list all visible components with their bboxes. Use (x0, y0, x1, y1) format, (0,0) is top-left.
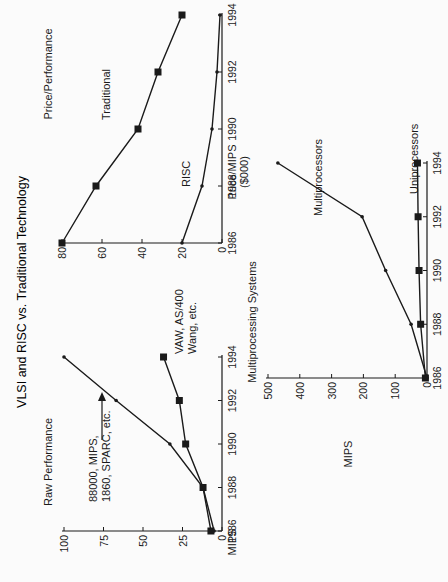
data-point-dot (168, 442, 172, 446)
x-tick-label: 1988 (431, 312, 443, 336)
y-tick-label: 300 (326, 382, 338, 400)
data-point-square (155, 69, 162, 76)
x-tick-label: 1992 (226, 60, 238, 84)
y-tick-label: 80 (56, 247, 68, 259)
data-point-dot (409, 322, 413, 326)
y-axis-label: MIPS (226, 529, 238, 556)
chart-title: Price/Performance (42, 28, 54, 119)
y-tick-label: 200 (357, 382, 369, 400)
chart-title: Raw Performance (42, 418, 54, 506)
data-point-square (182, 441, 189, 448)
annotation-traditional-systems: VAW, AS/400 (173, 289, 185, 354)
x-tick-label: 1988 (226, 476, 238, 500)
data-point-square (93, 183, 100, 190)
y-tick-label: 75 (98, 535, 110, 547)
price-performance-chart: 02040608019861988199019921994Price/Perfo… (42, 3, 250, 259)
x-tick-label: 1990 (226, 117, 238, 141)
y-axis-label: Price/MIPS (226, 144, 238, 199)
y-tick-label: 25 (177, 535, 189, 547)
data-point-dot (114, 399, 118, 403)
y-tick-label: 20 (176, 247, 188, 259)
series-line (278, 163, 427, 378)
series-label-multiprocessors: Multiprocessors (312, 138, 324, 216)
data-point-dot (384, 269, 388, 273)
data-point-dot (360, 215, 364, 219)
page-title: VLSI and RISC vs. Traditional Technology (15, 175, 29, 408)
data-point-square (59, 240, 66, 247)
y-tick-label: 60 (96, 247, 108, 259)
multiprocessing-systems-chart: 010020030040050019861988199019921994Mult… (246, 151, 443, 467)
data-point-dot (276, 161, 280, 165)
data-point-dot (215, 70, 219, 74)
series-line (182, 15, 220, 243)
y-tick-label: 500 (262, 382, 274, 400)
x-tick-label: 1990 (431, 259, 443, 283)
data-point-square (160, 354, 167, 361)
charts-group: 025507510019861988199019921994Raw Perfor… (42, 3, 443, 555)
arrow-head-icon (98, 392, 106, 401)
annotation-traditional-systems: Wang, etc. (186, 302, 198, 354)
chart-title: Multiprocessing Systems (246, 261, 258, 383)
data-point-dot (210, 127, 214, 131)
data-point-dot (62, 355, 66, 359)
y-tick-label: 100 (58, 535, 70, 553)
data-point-square (416, 267, 423, 274)
data-point-dot (218, 13, 222, 17)
data-point-square (135, 126, 142, 133)
x-tick-label: 1994 (226, 3, 238, 27)
x-tick-label: 1994 (226, 345, 238, 369)
series-label-uniprocessors: Uniprocessors (408, 123, 420, 194)
x-tick-label: 1994 (431, 151, 443, 175)
series-label-risc: RISC (180, 161, 192, 187)
data-point-square (200, 484, 207, 491)
raw-performance-chart: 025507510019861988199019921994Raw Perfor… (42, 345, 238, 555)
data-point-square (176, 397, 183, 404)
x-tick-label: 1992 (431, 205, 443, 229)
data-point-square (179, 12, 186, 19)
y-axis-label: ($000) (238, 156, 250, 188)
x-tick-label: 1992 (226, 389, 238, 413)
y-tick-label: 400 (294, 382, 306, 400)
rotated-page: VLSI and RISC vs. Traditional Technology… (0, 0, 448, 582)
data-point-square (415, 213, 422, 220)
data-point-square (207, 528, 214, 535)
data-point-square (422, 375, 429, 382)
annotation-risc-systems: 88000, MIPS, (87, 435, 99, 502)
series-line (62, 15, 182, 243)
charts-canvas: VLSI and RISC vs. Traditional Technology… (0, 0, 448, 582)
x-tick-label: 1986 (431, 366, 443, 390)
y-axis-label: MIPS (342, 441, 354, 468)
x-tick-label: 1990 (226, 432, 238, 456)
data-point-square (417, 321, 424, 328)
series-label-traditional: Traditional (100, 69, 112, 120)
y-tick-label: 40 (136, 247, 148, 259)
data-point-dot (180, 241, 184, 245)
y-tick-label: 100 (389, 382, 401, 400)
x-tick-label: 1986 (226, 231, 238, 255)
y-tick-label: 50 (137, 535, 149, 547)
data-point-dot (200, 184, 204, 188)
